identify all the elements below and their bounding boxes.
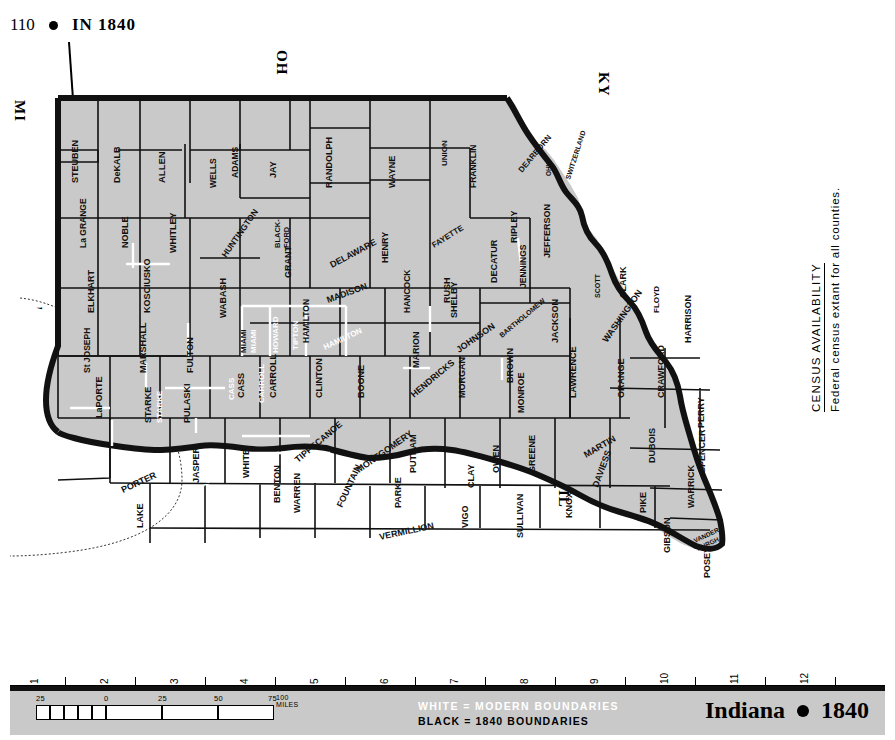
svg-text:MIAMI: MIAMI <box>239 329 248 353</box>
svg-text:OWEN: OWEN <box>491 445 501 473</box>
svg-text:JASPER: JASPER <box>191 446 201 483</box>
header-bullet-icon <box>49 21 58 30</box>
svg-text:SHELBY: SHELBY <box>449 281 459 318</box>
key-black-line: BLACK = 1840 BOUNDARIES <box>418 714 619 729</box>
svg-text:SPENCER: SPENCER <box>697 429 707 473</box>
ruler-number: 7 <box>449 678 460 684</box>
svg-text:OHIO: OHIO <box>545 159 552 176</box>
ruler-tick <box>835 677 836 686</box>
svg-text:WAYNE: WAYNE <box>387 156 397 188</box>
svg-text:FOUNTAIN: FOUNTAIN <box>335 463 363 509</box>
svg-text:MONROE: MONROE <box>516 373 526 414</box>
scale-segment <box>218 705 274 720</box>
svg-text:ALLEN: ALLEN <box>156 151 167 183</box>
svg-text:CLINTON: CLINTON <box>314 358 324 398</box>
ruler-tick <box>695 677 696 686</box>
svg-text:FRANKLIN: FRANKLIN <box>468 145 478 188</box>
map-brand: Indiana 1840 <box>705 697 869 724</box>
svg-text:STEUBEN: STEUBEN <box>70 140 80 183</box>
svg-text:JASPER: JASPER <box>202 456 211 488</box>
svg-text:RIPLEY: RIPLEY <box>509 210 519 243</box>
svg-text:GIBSON: GIBSON <box>662 517 672 553</box>
svg-text:PARKE: PARKE <box>393 477 403 508</box>
svg-text:DUBOIS: DUBOIS <box>647 428 657 463</box>
brand-year: 1840 <box>821 697 869 724</box>
ruler-tick <box>135 677 136 686</box>
map-svg: STEUBEN DeKALB ALLEN WELLS ADAMS JAY RAN… <box>10 88 830 648</box>
svg-text:KOSCIUSKO: KOSCIUSKO <box>142 258 152 313</box>
ruler-number: 3 <box>169 678 180 684</box>
svg-text:GRANT: GRANT <box>283 246 293 278</box>
bottom-bar: 25 0 25 50 75 100 MILES WHITE = MODERN B… <box>10 686 885 735</box>
svg-text:DeKALB: DeKALB <box>112 146 122 183</box>
svg-text:CRAWFORD: CRAWFORD <box>656 345 666 398</box>
state-label-ohio: OH <box>273 50 290 75</box>
svg-text:BROWN: BROWN <box>505 348 515 383</box>
svg-text:UNION: UNION <box>440 140 449 166</box>
ruler-number: 11 <box>729 674 740 684</box>
page-number: 110 <box>10 15 35 35</box>
ruler-tick <box>485 677 486 686</box>
ruler-tick <box>625 677 626 686</box>
svg-text:WARREN: WARREN <box>292 473 302 513</box>
ruler-number: 4 <box>239 678 250 684</box>
svg-text:POSEY: POSEY <box>702 547 712 578</box>
svg-text:HOWARD: HOWARD <box>271 316 280 353</box>
svg-text:PIKE: PIKE <box>638 492 648 513</box>
scale-segment <box>50 705 64 720</box>
brand-bullet-icon <box>797 705 809 717</box>
boundary-key: WHITE = MODERN BOUNDARIES BLACK = 1840 B… <box>418 699 619 729</box>
svg-text:VIGO: VIGO <box>460 505 470 528</box>
svg-text:CASS: CASS <box>236 373 246 398</box>
scale-segment <box>64 705 78 720</box>
ruler-number: 1 <box>29 678 40 684</box>
svg-text:STARKE: STARKE <box>143 387 153 423</box>
svg-text:JEFFERSON: JEFFERSON <box>542 204 552 258</box>
svg-text:SWITZERLAND: SWITZERLAND <box>564 130 586 181</box>
ruler-tick <box>275 677 276 686</box>
ruler-tick <box>205 677 206 686</box>
svg-text:HENRY: HENRY <box>380 232 390 263</box>
svg-text:TIPTON: TIPTON <box>291 321 300 350</box>
scale-segment <box>78 705 92 720</box>
svg-text:BOONE: BOONE <box>356 365 366 398</box>
scale-label: 50 <box>214 694 223 703</box>
svg-text:HARRISON: HARRISON <box>683 295 693 343</box>
scale-label: 25 <box>36 694 45 703</box>
ruler-tick <box>415 677 416 686</box>
svg-text:SULLIVAN: SULLIVAN <box>515 494 525 538</box>
svg-text:LAKE: LAKE <box>135 504 145 529</box>
ruler-number: 10 <box>659 673 670 684</box>
top-ruler: 1 2 3 4 5 6 7 8 9 10 11 12 <box>10 666 885 686</box>
scale-segment <box>92 705 106 720</box>
svg-text:CARROLL: CARROLL <box>257 364 266 403</box>
page-header: 110 IN 1840 <box>10 15 136 35</box>
svg-text:FORD: FORD <box>282 226 291 248</box>
page-title: IN 1840 <box>72 15 136 35</box>
svg-text:HANCOCK: HANCOCK <box>402 269 412 313</box>
svg-text:MARSHALL: MARSHALL <box>138 322 148 373</box>
svg-text:SCOTT: SCOTT <box>594 274 601 298</box>
svg-text:CASS: CASS <box>227 377 236 400</box>
ruler-number: 2 <box>99 678 110 684</box>
svg-text:JAY: JAY <box>268 161 278 178</box>
svg-text:La GRANGE: La GRANGE <box>78 198 88 248</box>
svg-text:NOBLE: NOBLE <box>120 217 130 249</box>
svg-text:PERRY: PERRY <box>696 397 706 428</box>
svg-text:WARRICK: WARRICK <box>686 465 696 508</box>
ruler-tick <box>765 677 766 686</box>
svg-text:ORANGE: ORANGE <box>616 358 626 398</box>
svg-text:MORGAN: MORGAN <box>457 357 467 398</box>
svg-text:JENNINGS: JENNINGS <box>518 244 528 288</box>
svg-text:DECATUR: DECATUR <box>489 239 499 283</box>
svg-text:ADAMS: ADAMS <box>230 147 240 178</box>
scale-segment <box>162 705 218 720</box>
key-white-line: WHITE = MODERN BOUNDARIES <box>418 699 619 714</box>
svg-text:ELKHART: ELKHART <box>86 270 96 313</box>
svg-text:CARROLL: CARROLL <box>268 354 278 398</box>
svg-text:WELLS: WELLS <box>208 158 218 188</box>
svg-text:VERMILLION: VERMILLION <box>378 521 434 542</box>
svg-text:STARKE: STARKE <box>155 390 164 423</box>
svg-text:WABASH: WABASH <box>218 278 228 318</box>
svg-text:BLACK-: BLACK- <box>273 219 282 248</box>
